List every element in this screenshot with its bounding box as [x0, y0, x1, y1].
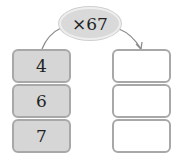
input-value: 4	[36, 56, 47, 76]
operation-label: ×67	[72, 14, 108, 34]
output-box[interactable]	[112, 49, 171, 83]
input-value: 6	[36, 91, 47, 111]
output-box[interactable]	[112, 119, 171, 153]
input-box: 6	[12, 84, 71, 118]
input-box: 4	[12, 49, 71, 83]
input-column: 4 6 7	[12, 49, 71, 154]
input-box: 7	[12, 119, 71, 153]
output-column	[112, 49, 171, 154]
output-box[interactable]	[112, 84, 171, 118]
input-value: 7	[36, 126, 47, 146]
operation-bubble: ×67	[59, 7, 121, 40]
